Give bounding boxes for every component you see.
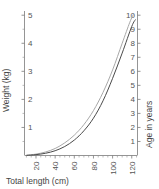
left-tick-label: 3	[28, 67, 33, 76]
bottom-tick-label: 100	[109, 161, 118, 175]
bottom-tick-label: 40	[51, 161, 60, 170]
left-axis-title: Weight (kg)	[1, 69, 11, 112]
bottom-tick-label: 80	[90, 161, 99, 170]
bottom-tick-label: 60	[70, 161, 79, 170]
bottom-tick-label: 120	[128, 161, 137, 175]
bottom-axis-title: Total length (cm)	[6, 176, 69, 186]
right-tick-label: 5	[131, 81, 136, 90]
left-axis-ticks	[22, 15, 25, 141]
age-curve	[26, 14, 133, 155]
right-tick-label: 8	[131, 39, 136, 48]
bottom-axis-ticks	[26, 156, 136, 159]
weight-curve	[26, 19, 135, 155]
right-axis-title: Age in years	[144, 101, 154, 148]
right-axis-tick-labels: 12345678910	[126, 11, 135, 146]
chart-figure: 12345 Weight (kg) 12345678910 Age in yea…	[0, 0, 159, 189]
right-tick-label: 7	[131, 53, 136, 62]
right-tick-label: 6	[131, 67, 136, 76]
left-tick-label: 2	[28, 95, 33, 104]
right-tick-label: 2	[131, 123, 136, 132]
bottom-axis-tick-labels: 20406080100120	[32, 161, 137, 175]
left-tick-label: 1	[28, 123, 33, 132]
right-tick-label: 4	[131, 95, 136, 104]
bottom-axis: 20406080100120 Total length (cm)	[6, 156, 138, 187]
left-axis-tick-labels: 12345	[28, 11, 33, 132]
growth-curve-chart: 12345 Weight (kg) 12345678910 Age in yea…	[0, 0, 159, 189]
right-tick-label: 1	[131, 137, 136, 146]
left-tick-label: 5	[28, 11, 33, 20]
right-axis: 12345678910 Age in years	[126, 11, 154, 155]
right-axis-ticks	[138, 15, 141, 141]
left-tick-label: 4	[28, 39, 33, 48]
left-axis: 12345 Weight (kg)	[1, 11, 33, 155]
bottom-tick-label: 20	[32, 161, 41, 170]
data-curves	[26, 14, 135, 156]
right-tick-label: 3	[131, 109, 136, 118]
